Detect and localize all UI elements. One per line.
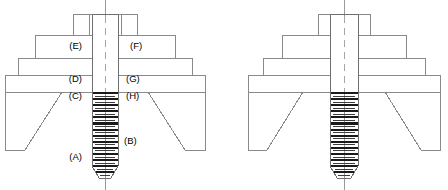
callout-label-A: (A) [69, 151, 82, 162]
callout-label-B: (B) [124, 135, 137, 146]
base-block-right [385, 92, 440, 150]
base-block-left [5, 92, 62, 150]
callout-label-H: (H) [126, 90, 139, 101]
left-assembly [5, 0, 205, 190]
bolted-joint-cross-section-svg: (A)(B)(C)(D)(E)(F)(G)(H) [0, 0, 448, 190]
callout-label-E: (E) [69, 40, 82, 51]
base-block-left [248, 92, 303, 150]
callout-label-D: (D) [69, 73, 82, 84]
base-block-right [148, 92, 205, 150]
technical-drawing-figure: (A)(B)(C)(D)(E)(F)(G)(H) [0, 0, 448, 190]
callout-label-F: (F) [130, 40, 142, 51]
callout-label-C: (C) [69, 90, 82, 101]
callout-label-G: (G) [126, 73, 140, 84]
right-assembly [248, 0, 440, 190]
